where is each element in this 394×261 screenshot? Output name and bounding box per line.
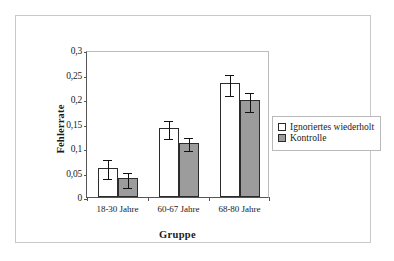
plot-area: 00,050,10,150,20,250,3 18-30 Jahre60-67 … xyxy=(86,51,269,198)
y-axis-tick-label: 0,1 xyxy=(71,145,82,155)
error-bar-cap xyxy=(184,151,193,152)
bar[interactable] xyxy=(220,83,240,197)
legend-swatch-icon xyxy=(278,134,286,142)
legend-item[interactable]: Kontrolle xyxy=(278,134,374,144)
error-bar xyxy=(230,75,231,96)
bar-group xyxy=(87,52,148,197)
bar[interactable] xyxy=(240,100,260,197)
error-bar xyxy=(128,173,129,188)
y-axis-title: Fehlerrate xyxy=(55,104,66,153)
legend-swatch-icon xyxy=(278,123,286,131)
error-bar xyxy=(189,138,190,152)
y-axis-tick-label: 0,3 xyxy=(71,47,82,57)
y-axis-tick-label: 0,2 xyxy=(71,96,82,106)
y-axis-tick-label: 0,05 xyxy=(66,170,82,180)
x-axis-tick-mark xyxy=(148,197,149,201)
x-axis-title: Gruppe xyxy=(86,229,269,240)
legend-item[interactable]: Ignoriertes wiederholt xyxy=(278,123,374,133)
error-bar-cap xyxy=(123,188,132,189)
y-axis-tick-label: 0,15 xyxy=(66,121,82,131)
error-bar xyxy=(250,93,251,112)
bar-group xyxy=(148,52,209,197)
x-axis-tick-mark xyxy=(209,197,210,201)
error-bar-cap xyxy=(103,160,112,161)
x-axis-tick-label: 68-80 Jahre xyxy=(218,205,260,214)
error-bar-cap xyxy=(164,139,173,140)
error-bar-cap xyxy=(225,96,234,97)
bar-group xyxy=(209,52,270,197)
error-bar-cap xyxy=(103,179,112,180)
figure-frame: Fehlerrate 00,050,10,150,20,250,3 18-30 … xyxy=(15,15,371,243)
error-bar-cap xyxy=(184,138,193,139)
error-bar xyxy=(169,121,170,140)
error-bar-cap xyxy=(245,112,254,113)
legend-item-label: Ignoriertes wiederholt xyxy=(290,123,374,133)
error-bar-cap xyxy=(164,121,173,122)
y-axis-tick-label: 0 xyxy=(77,194,82,204)
x-axis-tick-label: 18-30 Jahre xyxy=(96,205,138,214)
x-axis-tick-mark xyxy=(269,197,270,201)
error-bar-cap xyxy=(123,173,132,174)
x-axis-tick-mark xyxy=(87,197,88,201)
legend-item-label: Kontrolle xyxy=(290,134,326,144)
x-axis-tick-label: 60-67 Jahre xyxy=(157,205,199,214)
error-bar xyxy=(108,160,109,179)
error-bar-cap xyxy=(225,75,234,76)
y-axis-tick-label: 0,25 xyxy=(66,72,82,82)
error-bar-cap xyxy=(245,93,254,94)
chart-legend: Ignoriertes wiederholt Kontrolle xyxy=(272,116,381,151)
